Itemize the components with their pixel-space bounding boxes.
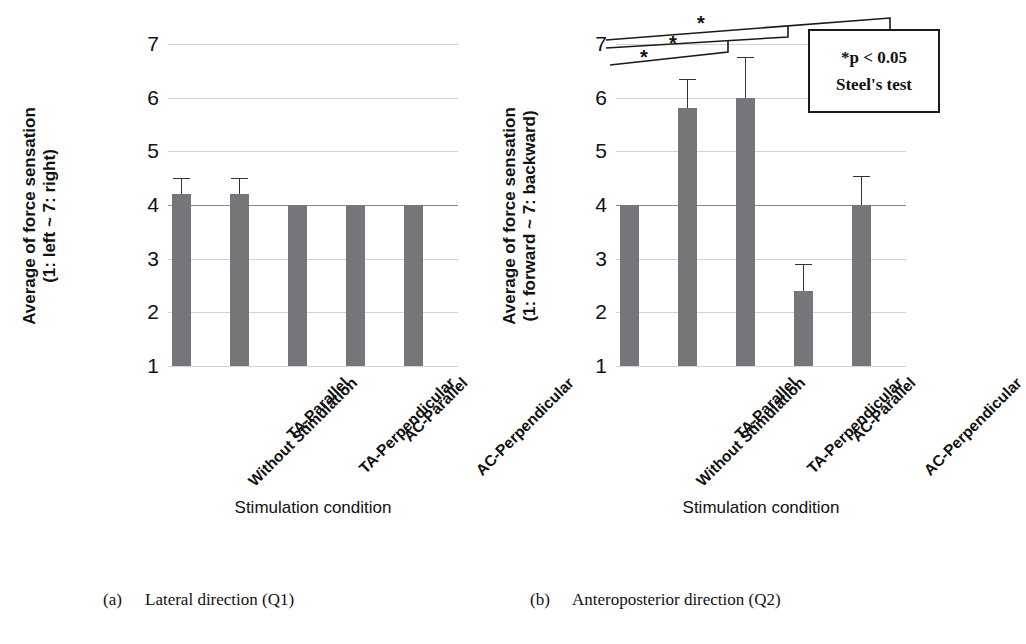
panel-caption-b-text: Anteroposterior direction (Q2) (572, 590, 781, 609)
y-tick-7: 7 (147, 32, 159, 56)
y-tick-3: 3 (147, 247, 159, 271)
bar-ac-parallel (346, 205, 365, 366)
panel-caption-a-text: Lateral direction (Q1) (145, 590, 294, 609)
y-axis-title-a-line1: Average of force sensation (20, 46, 40, 386)
y-axis-title-b: Average of force sensation (1: forward ~… (500, 46, 544, 386)
plot-area-a: 7 6 5 4 3 2 1 (168, 44, 458, 366)
x-category-label-ac-perpendicular: AC-Perpendicular (920, 374, 1025, 479)
y-tick-2: 2 (595, 300, 607, 324)
bar-ta-parallel (230, 194, 249, 366)
bar-without-stimulation (620, 205, 639, 366)
y-axis-title-b-line1: Average of force sensation (500, 46, 520, 386)
y-tick-2: 2 (147, 300, 159, 324)
errorbar-line-ac-parallel (803, 264, 804, 291)
gridline-5: 5 (168, 151, 458, 152)
significance-star-1: * (640, 46, 648, 69)
x-axis-title-b: Stimulation condition (616, 498, 906, 518)
significance-star-3: * (697, 12, 705, 35)
errorbar-line-ta-parallel (239, 178, 240, 194)
bar-ac-parallel (794, 291, 813, 366)
gridline-6: 6 (168, 98, 458, 99)
bar-ta-parallel (678, 108, 697, 366)
bar-ta-perpendicular (288, 205, 307, 366)
y-tick-1: 1 (595, 354, 607, 378)
panel-anteroposterior-direction: Average of force sensation (1: forward ~… (494, 0, 988, 644)
y-axis-title-b-line2: (1: forward ~ 7: backward) (520, 46, 540, 386)
y-tick-6: 6 (147, 86, 159, 110)
significance-note-box: *p < 0.05 Steel's test (808, 29, 940, 113)
significance-note-line1: *p < 0.05 (841, 48, 907, 68)
errorbar-line-without-stimulation (181, 178, 182, 194)
errorbar-cap-ac-parallel (795, 264, 812, 265)
x-axis-title-a: Stimulation condition (168, 498, 458, 518)
panel-lateral-direction: Average of force sensation (1: left ~ 7:… (0, 0, 494, 644)
significance-star-2: * (669, 32, 677, 55)
panel-caption-a-tag: (a) (103, 590, 145, 610)
bar-without-stimulation (172, 194, 191, 366)
panel-caption-b: (b)Anteroposterior direction (Q2) (530, 590, 781, 610)
y-tick-5: 5 (595, 139, 607, 163)
y-tick-5: 5 (147, 139, 159, 163)
x-category-label-ta-parallel: TA-Parallel (283, 374, 352, 443)
x-category-label-ta-parallel: TA-Parallel (731, 374, 800, 443)
y-tick-3: 3 (595, 247, 607, 271)
errorbar-cap-ta-parallel (679, 79, 696, 80)
gridline-7: 7 (168, 44, 458, 45)
y-axis-title-a-line2: (1: left ~ 7: right) (40, 46, 60, 386)
errorbar-cap-ta-parallel (231, 178, 248, 179)
bar-ta-perpendicular (736, 98, 755, 366)
gridline-5: 5 (616, 151, 906, 152)
bar-ac-perpendicular (852, 205, 871, 366)
panel-caption-a: (a)Lateral direction (Q1) (103, 590, 294, 610)
bar-ac-perpendicular (404, 205, 423, 366)
panel-caption-b-tag: (b) (530, 590, 572, 610)
errorbar-cap-without-stimulation (173, 178, 190, 179)
y-tick-4: 4 (147, 193, 159, 217)
errorbar-line-ac-perpendicular (861, 176, 862, 206)
errorbar-cap-ac-perpendicular (853, 176, 870, 177)
y-tick-6: 6 (595, 86, 607, 110)
significance-note-line2: Steel's test (836, 75, 912, 95)
y-axis-title-a: Average of force sensation (1: left ~ 7:… (20, 46, 64, 386)
gridline-1: 1 (168, 366, 458, 367)
gridline-1: 1 (616, 366, 906, 367)
y-tick-4: 4 (595, 193, 607, 217)
errorbar-line-ta-parallel (687, 79, 688, 109)
y-tick-1: 1 (147, 354, 159, 378)
